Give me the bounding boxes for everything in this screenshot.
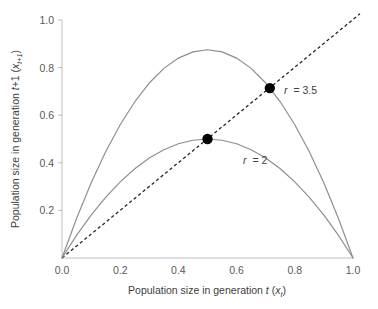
x-axis-title-prefix: Population size in generation <box>128 284 266 296</box>
fixed-point-marker-r-2 <box>202 134 212 144</box>
x-tick-label-0.8: 0.8 <box>287 264 302 276</box>
r-symbol-3.5: r <box>284 84 288 96</box>
y-axis-title-subscript: t+1 <box>15 53 24 63</box>
curve-annotation-r-3.5: r = 3.5 <box>284 84 317 96</box>
chart-figure: 1.0 0.8 0.6 0.4 0.2 0.0 0.2 0.4 0.6 0.8 … <box>0 0 378 309</box>
y-axis-title-plus-one: +1 <box>9 75 21 87</box>
y-tick-label-1.0: 1.0 <box>39 14 54 26</box>
x-tick-label-0.4: 0.4 <box>171 264 186 276</box>
r-value-3.5: = 3.5 <box>293 84 317 96</box>
curve-annotation-r-2: r = 2 <box>243 154 267 166</box>
x-tick-label-0.6: 0.6 <box>229 264 244 276</box>
y-axis-title-paren-close: ) <box>9 50 21 54</box>
fixed-point-marker-r-3.5 <box>265 83 275 93</box>
x-tick-label-0.2: 0.2 <box>113 264 128 276</box>
y-axis-title-prefix: Population size in generation <box>9 90 21 228</box>
x-tick-label-0.0: 0.0 <box>55 264 70 276</box>
x-axis-title-paren-close: ) <box>282 284 286 296</box>
y-tick-label-0.6: 0.6 <box>39 109 54 121</box>
y-tick-label-0.2: 0.2 <box>39 204 54 216</box>
r-value-2: = 2 <box>252 154 267 166</box>
x-tick-label-1.0: 1.0 <box>346 264 361 276</box>
logistic-map-plot: 1.0 0.8 0.6 0.4 0.2 0.0 0.2 0.4 0.6 0.8 … <box>0 0 378 309</box>
r-symbol-2: r <box>243 154 247 166</box>
y-tick-label-0.4: 0.4 <box>39 157 54 169</box>
y-tick-label-0.8: 0.8 <box>39 62 54 74</box>
